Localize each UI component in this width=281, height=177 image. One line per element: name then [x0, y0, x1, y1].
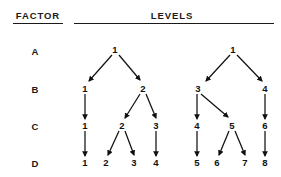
node-c2: 2: [119, 120, 124, 131]
node-a1-left: 1: [112, 44, 118, 55]
diagram-page: FACTOR LEVELS A B C D 1 1: [0, 0, 281, 177]
node-d4: 4: [153, 157, 159, 168]
edge-a1-b1: [89, 55, 112, 81]
node-d8: 8: [262, 157, 267, 168]
edge-a1r-b3: [206, 55, 230, 81]
edge-b2-c2: [125, 94, 140, 118]
node-c6: 6: [262, 120, 267, 131]
node-b2: 2: [140, 83, 145, 94]
nested-factor-tree-diagram: FACTOR LEVELS A B C D 1 1: [0, 0, 281, 177]
factor-row-c: C: [32, 121, 39, 132]
node-c1: 1: [82, 120, 88, 131]
edge-c2-d3: [125, 131, 134, 155]
edge-a1-b2: [119, 55, 140, 80]
levels-column-header: LEVELS: [151, 10, 193, 21]
edge-a1r-b4: [237, 55, 262, 81]
node-d7: 7: [242, 157, 247, 168]
factor-row-b: B: [32, 84, 39, 95]
node-c3: 3: [153, 120, 158, 131]
node-d3: 3: [131, 157, 136, 168]
factor-column-header: FACTOR: [16, 10, 60, 21]
node-b1: 1: [82, 83, 88, 94]
edge-c5-d7: [235, 131, 245, 155]
edge-c2-d2: [108, 131, 119, 155]
edge-c5-d6: [219, 131, 229, 155]
node-b3: 3: [195, 83, 200, 94]
node-d1: 1: [82, 157, 88, 168]
edge-b2-c3: [146, 94, 156, 118]
factor-row-d: D: [32, 158, 39, 169]
node-c5: 5: [229, 120, 235, 131]
node-c4: 4: [194, 120, 200, 131]
node-d5: 5: [194, 157, 200, 168]
node-b4: 4: [262, 83, 268, 94]
node-a1-right: 1: [230, 44, 236, 55]
edge-b3-c5: [201, 94, 228, 117]
factor-row-a: A: [32, 46, 39, 57]
node-d2: 2: [103, 157, 108, 168]
node-d6: 6: [214, 157, 219, 168]
